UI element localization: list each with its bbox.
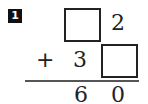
problem-number-badge: 1 bbox=[8, 9, 22, 23]
plus-operator: + bbox=[36, 49, 52, 71]
result-ones-digit: 0 bbox=[110, 84, 126, 104]
result-tens-digit: 6 bbox=[73, 84, 89, 104]
top-ones-digit: 2 bbox=[110, 12, 126, 34]
answer-box-top-tens[interactable] bbox=[64, 8, 101, 42]
answer-box-second-ones[interactable] bbox=[101, 44, 138, 78]
second-tens-digit: 3 bbox=[72, 49, 88, 71]
